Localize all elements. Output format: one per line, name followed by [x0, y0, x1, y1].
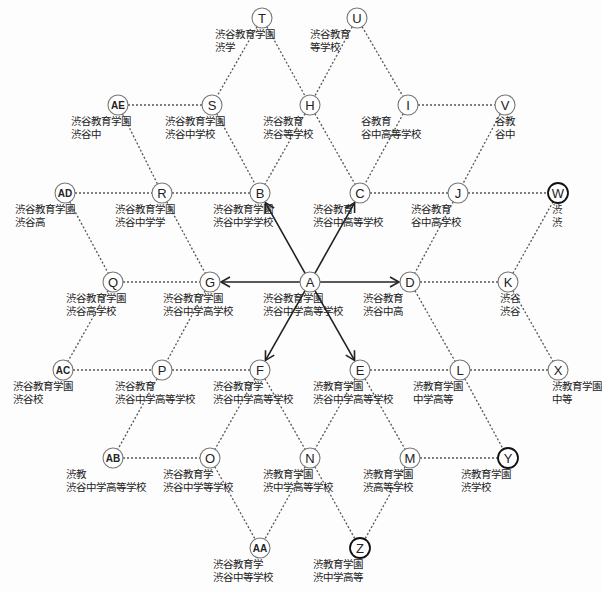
label-line2: 渋谷中学等学校 [163, 481, 233, 493]
label-line2: 渋谷校 [13, 393, 43, 405]
edge-u-i [362, 27, 403, 97]
node-label-g: 渋谷教育学園渋谷中学高学校 [163, 292, 233, 318]
label-line1: 渋谷教育学園 [71, 115, 131, 127]
label-line1: 渋谷教育学園 [13, 380, 73, 392]
node-label-ad: 渋谷教育学園渋谷高 [15, 203, 75, 229]
edge-l-y [465, 379, 503, 449]
label-line2: 渋谷中学高等学校 [213, 393, 293, 405]
node-letter: AC [56, 365, 70, 376]
node-label-s: 渋谷教育学園渋谷中学校 [165, 115, 225, 141]
node-w: W [548, 183, 568, 203]
label-line1: 渋谷教育学園 [215, 28, 275, 40]
label-line2: 等学校 [310, 41, 340, 53]
node-letter: C [355, 186, 364, 201]
label-line2: 渋谷中学高等学校 [313, 393, 393, 405]
node-letter: AD [58, 188, 72, 199]
node-label-z: 渋教育学園渋中学高等 [313, 558, 363, 584]
node-q: Q [103, 272, 123, 292]
label-line2: 渋谷中学学 [115, 216, 165, 228]
node-label-u: 渋谷教育等学校 [310, 28, 350, 54]
node-t: T [252, 8, 272, 28]
node-letter: R [157, 186, 166, 201]
node-label-i: 谷教育谷中高等学校 [361, 115, 421, 141]
edge-w-k [513, 202, 553, 274]
node-o: O [200, 448, 220, 468]
node-label-k: 渋谷渋谷 [500, 292, 520, 318]
node-e: E [350, 360, 370, 380]
node-label-x: 渋教育学園中等 [552, 380, 602, 406]
node-label-b: 渋谷教育学園渋谷中学学校 [213, 203, 273, 229]
node-label-o: 渋谷教育学渋谷中学等学校 [163, 468, 233, 494]
node-letter: Q [108, 275, 118, 290]
node-letter: I [406, 98, 410, 113]
label-line2: 渋谷 [500, 305, 520, 317]
label-line1: 渋教育学園 [263, 468, 313, 480]
node-letter: K [504, 275, 513, 290]
label-line1: 渋谷教育学園 [66, 292, 126, 304]
node-aa: AA [250, 538, 270, 558]
label-line1: 渋教育学園 [413, 380, 463, 392]
node-k: K [498, 272, 518, 292]
node-h: H [300, 95, 320, 115]
edge-h-c [315, 114, 355, 185]
label-line2: 渋谷中学校 [165, 128, 215, 140]
node-b: B [250, 183, 270, 203]
label-line1: 渋谷教育学園 [165, 115, 225, 127]
label-line2: 渋谷中 [71, 128, 101, 140]
node-g: G [200, 272, 220, 292]
node-c: C [350, 183, 370, 203]
label-line1: 渋 [552, 203, 562, 215]
node-label-v: 谷教谷中 [495, 115, 515, 141]
node-s: S [202, 95, 222, 115]
node-label-ab: 渋教渋谷中学高等学校 [66, 468, 146, 494]
node-label-c: 渋谷教育渋谷中高等学校 [313, 203, 383, 229]
label-line1: 渋谷教育学園 [15, 203, 75, 215]
node-z: Z [350, 538, 370, 558]
node-ae: AE [108, 95, 128, 115]
node-label-j: 渋谷教育谷中高学校 [411, 203, 461, 229]
node-letter: D [405, 275, 414, 290]
label-line2: 中学高等 [413, 393, 453, 405]
label-line2: 渋谷中学学校 [213, 216, 273, 228]
node-letter: W [552, 186, 565, 201]
label-line2: 渋学校 [461, 481, 491, 493]
node-letter: N [305, 451, 314, 466]
node-d: D [400, 272, 420, 292]
label-line1: 渋谷教育 [363, 292, 403, 304]
node-label-w: 渋渋 [552, 203, 562, 229]
label-line2: 渋谷中学高等学校 [263, 305, 343, 317]
node-label-aa: 渋谷教育学渋谷中等学校 [213, 558, 273, 584]
node-n: N [300, 448, 320, 468]
node-label-l: 渋教育学園中学高等 [413, 380, 463, 406]
label-line2: 渋学 [215, 41, 235, 53]
label-line2: 中等 [552, 393, 572, 405]
node-label-e: 渋教育学園渋谷中学高等学校 [313, 380, 393, 406]
label-line1: 渋谷教育 [411, 203, 451, 215]
node-letter: J [455, 186, 462, 201]
node-letter: B [256, 186, 265, 201]
node-letter: U [352, 11, 361, 26]
label-line1: 渋谷 [500, 292, 520, 304]
label-line2: 渋中学高等 [313, 571, 363, 583]
node-y: Y [498, 448, 518, 468]
node-letter: L [456, 363, 463, 378]
node-j: J [448, 183, 468, 203]
node-letter: X [554, 363, 563, 378]
label-line2: 渋谷等学校 [263, 128, 313, 140]
label-line2: 渋谷高 [15, 216, 45, 228]
node-letter: Z [356, 541, 364, 556]
label-line2: 渋谷高学校 [66, 305, 116, 317]
label-line2: 谷中高等学校 [361, 128, 421, 140]
node-r: R [152, 183, 172, 203]
node-label-t: 渋谷教育学園渋学 [215, 28, 275, 54]
node-label-f: 渋谷教育学渋谷中学高等学校 [213, 380, 293, 406]
label-line2: 渋谷中等学校 [213, 571, 273, 583]
node-label-n: 渋教育学園渋中学高等学校 [263, 468, 333, 494]
node-letter: O [205, 451, 215, 466]
node-letter: E [356, 363, 365, 378]
label-line1: 渋谷教育 [115, 380, 155, 392]
node-label-ae: 渋谷教育学園渋谷中 [71, 115, 131, 141]
node-ad: AD [55, 183, 75, 203]
label-line1: 渋谷教育学園 [213, 203, 273, 215]
node-label-ac: 渋谷教育学園渋谷校 [13, 380, 73, 406]
